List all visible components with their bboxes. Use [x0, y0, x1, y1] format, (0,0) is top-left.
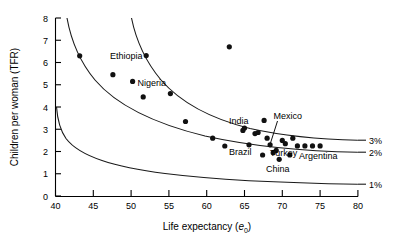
- y-tick-label-0: 0: [43, 192, 48, 202]
- data-point: [310, 143, 315, 148]
- x-axis-ticks: [56, 190, 358, 197]
- x-tick-label-55: 55: [164, 201, 174, 211]
- x-tick-label-60: 60: [202, 201, 212, 211]
- y-tick-label-1: 1: [43, 169, 48, 179]
- x-tick-label-70: 70: [277, 201, 287, 211]
- curve-label-2-percent: 2%: [369, 148, 382, 158]
- data-point: [144, 53, 149, 58]
- data-point: [77, 53, 82, 58]
- data-point: [318, 143, 323, 148]
- scatter-chart-figure: 8 7 6 5 4 3 2 1 0 40 45 50 55 60: [0, 0, 394, 244]
- data-point: [260, 152, 265, 157]
- data-point: [265, 136, 270, 141]
- y-tick-label-4: 4: [43, 103, 48, 113]
- axes-group: [56, 18, 359, 197]
- data-point: [130, 79, 135, 84]
- y-tick-label-8: 8: [43, 14, 48, 24]
- x-tick-label-45: 45: [88, 201, 98, 211]
- y-axis-tick-labels: 8 7 6 5 4 3 2 1 0: [43, 14, 48, 202]
- curve-labels-group: 3% 2% 1%: [358, 136, 382, 190]
- annotation-nigeria: Nigeria: [138, 78, 167, 88]
- annotation-ethiopia: Ethiopia: [110, 51, 143, 61]
- annotation-mexico: Mexico: [274, 111, 303, 121]
- data-point: [183, 119, 188, 124]
- x-axis-title-close: ): [248, 221, 251, 232]
- y-tick-label-2: 2: [43, 147, 48, 157]
- data-point: [256, 130, 261, 135]
- data-point: [262, 118, 267, 123]
- x-axis-title: Life expectancy (e0): [163, 221, 251, 234]
- y-axis-title: Children per woman (TFR): [9, 48, 20, 166]
- data-point: [302, 143, 307, 148]
- annotation-brazil: Brazil: [229, 147, 252, 157]
- y-tick-label-7: 7: [43, 36, 48, 46]
- data-point: [168, 91, 173, 96]
- y-axis-ticks: [56, 18, 62, 196]
- x-axis-tick-labels: 40 45 50 55 60 65 70 75 80: [50, 201, 362, 211]
- y-tick-label-5: 5: [43, 80, 48, 90]
- curve-2-percent: [67, 18, 358, 152]
- data-point: [283, 141, 288, 146]
- x-tick-label-75: 75: [315, 201, 325, 211]
- data-point: [227, 44, 232, 49]
- annotation-turkey: Turkey: [270, 148, 298, 158]
- x-tick-label-40: 40: [50, 201, 60, 211]
- annotation-china: China: [266, 164, 290, 174]
- point-annotations-group: Ethiopia Nigeria India Brazil Mexico Tur…: [110, 51, 338, 174]
- x-tick-label-65: 65: [239, 201, 249, 211]
- curve-label-3-percent: 3%: [369, 136, 382, 146]
- chart-canvas: 8 7 6 5 4 3 2 1 0 40 45 50 55 60: [0, 0, 394, 244]
- x-tick-label-80: 80: [353, 201, 363, 211]
- data-point: [110, 72, 115, 77]
- data-point: [222, 143, 227, 148]
- y-tick-label-3: 3: [43, 125, 48, 135]
- y-tick-label-6: 6: [43, 58, 48, 68]
- x-axis-title-main: Life expectancy (: [163, 221, 239, 232]
- annotation-mexico-leader: [271, 121, 278, 143]
- curve-label-1-percent: 1%: [369, 180, 382, 190]
- data-point: [210, 136, 215, 141]
- data-point: [242, 126, 247, 131]
- x-tick-label-50: 50: [126, 201, 136, 211]
- data-point: [290, 136, 295, 141]
- data-points-group: [77, 44, 323, 162]
- annotation-india: India: [229, 116, 249, 126]
- data-point: [141, 94, 146, 99]
- annotation-argentina: Argentina: [299, 151, 338, 161]
